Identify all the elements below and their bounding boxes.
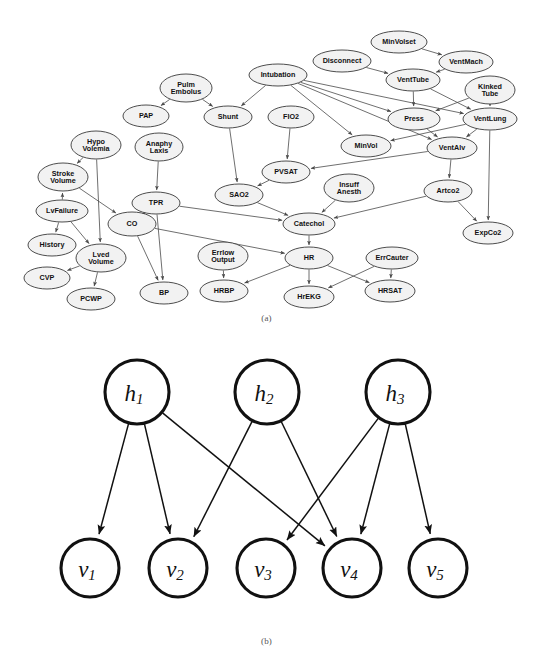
alarm-node-pulmembolus[interactable]: PulmEmbolus — [160, 74, 212, 102]
graph-node-v2[interactable]: v2 — [149, 539, 207, 597]
alarm-edge — [427, 129, 437, 137]
graph-node-v5[interactable]: v5 — [409, 539, 467, 597]
alarm-node-lvfailure[interactable]: LvFailure — [36, 200, 88, 222]
alarm-node-label: SAO2 — [229, 190, 249, 199]
alarm-node-artco2[interactable]: Artco2 — [424, 180, 472, 202]
alarm-edge — [157, 161, 159, 190]
panel-a-alarm-network: MinVolsetDisconnectVentMachIntubationVen… — [0, 0, 533, 318]
alarm-edge — [157, 214, 163, 280]
alarm-node-hrbp[interactable]: HRBP — [200, 280, 248, 302]
alarm-node-expco2[interactable]: ExpCo2 — [463, 222, 513, 244]
alarm-node-tpr[interactable]: TPR — [132, 192, 180, 214]
alarm-node-lvedvolume[interactable]: LvedVolume — [76, 244, 126, 272]
alarm-node-hrekg[interactable]: HrEKG — [284, 286, 334, 308]
alarm-edge — [257, 203, 288, 216]
alarm-edge — [258, 180, 269, 186]
alarm-node-label: CO — [127, 219, 138, 228]
alarm-network-svg: MinVolsetDisconnectVentMachIntubationVen… — [0, 0, 533, 318]
alarm-node-label: VentMach — [449, 57, 483, 66]
alarm-edge — [287, 128, 290, 159]
alarm-node-kinkedtube[interactable]: KinkedTube — [465, 76, 515, 104]
alarm-edge — [466, 129, 476, 137]
alarm-edge — [161, 99, 170, 105]
graph-node-v4[interactable]: v4 — [323, 539, 381, 597]
alarm-node-venttube[interactable]: VentTube — [386, 69, 440, 91]
graph-node-h2[interactable]: h2 — [235, 360, 299, 424]
alarm-node-intubation[interactable]: Intubation — [249, 64, 307, 86]
bipartite-edge — [99, 424, 128, 534]
alarm-node-ventlung[interactable]: VentLung — [463, 108, 517, 130]
alarm-node-pap[interactable]: PAP — [123, 105, 169, 127]
alarm-node-catechol[interactable]: Catechol — [283, 213, 335, 235]
bipartite-edge — [163, 413, 325, 546]
alarm-node-co[interactable]: CO — [108, 212, 156, 236]
alarm-node-bp[interactable]: BP — [140, 282, 188, 304]
alarm-edge — [301, 82, 391, 111]
alarm-node-label: PAP — [139, 111, 153, 120]
alarm-node-minvolset[interactable]: MinVolset — [371, 31, 427, 53]
alarm-node-label: Artco2 — [437, 186, 460, 195]
alarm-node-label: ErrCauter — [375, 253, 408, 262]
alarm-node-hrsat[interactable]: HRSAT — [365, 280, 415, 302]
alarm-node-insuffanesth[interactable]: InsuffAnesth — [324, 174, 374, 202]
alarm-node-label: BP — [159, 288, 169, 297]
caption-b: (b) — [0, 636, 533, 646]
alarm-node-pvsat[interactable]: PVSAT — [262, 161, 310, 183]
panel-b-bipartite-graph: h1h2h3v1v2v3v4v5 — [0, 330, 533, 630]
alarm-node-strokevolume[interactable]: StrokeVolume — [38, 163, 88, 191]
alarm-node-label: MinVolset — [382, 37, 416, 46]
alarm-node-label: StrokeVolume — [50, 169, 75, 186]
alarm-node-label: VentTube — [397, 75, 429, 84]
alarm-node-fio2[interactable]: FIO2 — [268, 106, 314, 128]
alarm-node-label: Shunt — [218, 112, 239, 121]
alarm-node-cvp[interactable]: CVP — [24, 267, 70, 289]
alarm-node-label: TPR — [149, 198, 164, 207]
alarm-node-hr[interactable]: HR — [285, 247, 333, 269]
alarm-edge — [77, 158, 83, 164]
alarm-node-errlowoutput[interactable]: ErrlowOutput — [198, 242, 248, 270]
alarm-node-label: Disconnect — [323, 56, 362, 65]
alarm-node-pcwp[interactable]: PCWP — [67, 288, 115, 310]
alarm-node-errcauter[interactable]: ErrCauter — [366, 247, 418, 269]
caption-a: (a) — [0, 313, 533, 323]
bipartite-edge — [281, 422, 336, 537]
alarm-node-label: HRBP — [214, 286, 235, 295]
graph-node-h3[interactable]: h3 — [366, 360, 430, 424]
alarm-node-ventalv[interactable]: VentAlv — [427, 137, 477, 159]
alarm-node-disconnect[interactable]: Disconnect — [313, 50, 371, 72]
alarm-edge — [366, 68, 388, 74]
alarm-edge — [322, 200, 336, 212]
alarm-edge — [391, 270, 392, 279]
alarm-node-label: VentLung — [474, 114, 507, 123]
alarm-nodes-group: MinVolsetDisconnectVentMachIntubationVen… — [24, 31, 517, 310]
alarm-node-shunt[interactable]: Shunt — [204, 106, 252, 128]
alarm-node-anaphylaxis[interactable]: AnaphyLaxis — [135, 133, 183, 161]
alarm-node-label: HrEKG — [297, 292, 321, 301]
alarm-node-press[interactable]: Press — [388, 108, 440, 130]
graph-node-h1[interactable]: h1 — [105, 360, 169, 424]
alarm-edge — [458, 202, 477, 222]
alarm-node-ventmach[interactable]: VentMach — [439, 51, 493, 73]
graph-node-v3[interactable]: v3 — [237, 539, 295, 597]
alarm-node-label: ErrlowOutput — [211, 248, 235, 265]
bipartite-graph-svg: h1h2h3v1v2v3v4v5 — [0, 330, 533, 661]
alarm-node-minvol[interactable]: MinVol — [341, 135, 391, 157]
alarm-node-label: ExpCo2 — [475, 228, 502, 237]
alarm-edge — [328, 266, 370, 283]
alarm-node-sao2[interactable]: SAO2 — [215, 184, 263, 206]
alarm-node-label: History — [40, 240, 65, 249]
alarm-node-label: CVP — [40, 273, 55, 282]
alarm-node-hypovolemia[interactable]: HypoVolemia — [71, 131, 121, 159]
alarm-edge — [138, 236, 158, 280]
alarm-edge — [56, 222, 59, 232]
bipartite-edge — [144, 424, 170, 534]
graph-node-v1[interactable]: v1 — [61, 539, 119, 597]
alarm-node-history[interactable]: History — [28, 234, 76, 256]
alarm-node-label: MinVol — [354, 141, 377, 150]
alarm-edge — [436, 69, 445, 72]
alarm-edge — [180, 206, 283, 220]
alarm-node-label: FIO2 — [283, 112, 299, 121]
alarm-edge — [328, 266, 374, 287]
bipartite-edge — [405, 424, 430, 534]
alarm-edge — [245, 265, 291, 283]
